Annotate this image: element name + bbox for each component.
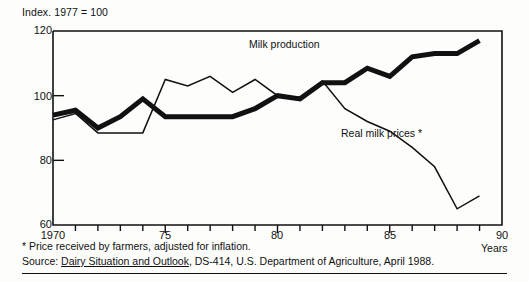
- series-line-milk-production: [53, 41, 480, 128]
- source-publication-title: Dairy Situation and Outlook: [61, 255, 189, 267]
- x-axis-tick-marks: [75, 225, 479, 233]
- milk-index-chart-figure: Index. 1977 = 100 120 100 80 60 1970 75 …: [0, 0, 529, 282]
- bottom-divider-rule: [22, 273, 507, 274]
- y-axis-tick-marks: [53, 96, 64, 161]
- chart-footnote: * Price received by farmers, adjusted fo…: [22, 240, 251, 252]
- source-prefix: Source:: [22, 255, 61, 267]
- series-line-real-milk-prices: [53, 76, 480, 209]
- source-citation-rest: , DS-414, U.S. Department of Agriculture…: [189, 255, 434, 267]
- plot-frame: [53, 31, 502, 225]
- chart-source-line: Source: Dairy Situation and Outlook, DS-…: [22, 255, 434, 267]
- plot-border: [53, 31, 502, 225]
